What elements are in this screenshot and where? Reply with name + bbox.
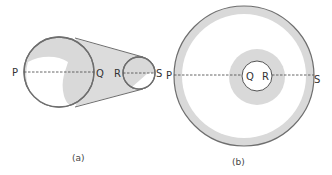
diagram-canvas: P Q R S (a) P Q R S (b) — [0, 0, 332, 175]
label-b-r: R — [262, 71, 269, 82]
label-b-q: Q — [246, 71, 254, 82]
label-a-r: R — [114, 68, 121, 79]
label-a-s: S — [156, 68, 162, 79]
figure-b: P Q R S (b) — [166, 6, 320, 167]
label-a-q: Q — [96, 68, 104, 79]
label-b-s: S — [314, 74, 320, 85]
caption-b: (b) — [232, 157, 245, 167]
label-a-p: P — [12, 67, 18, 78]
label-b-p: P — [166, 70, 172, 81]
caption-a: (a) — [72, 153, 85, 163]
figure-a: P Q R S (a) — [12, 37, 162, 163]
